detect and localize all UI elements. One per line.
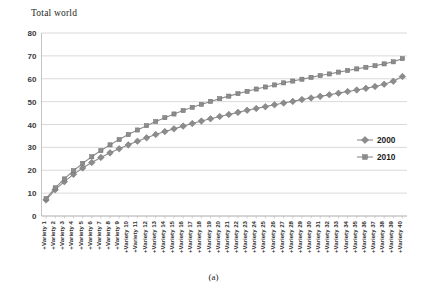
- data-point-marker: [226, 111, 233, 118]
- x-axis-tick-label: +Variety 3: [58, 220, 65, 249]
- data-point-marker: [355, 67, 359, 71]
- data-point-marker: [135, 128, 139, 132]
- data-point-marker: [282, 81, 286, 85]
- y-axis-tick-label: 80: [28, 29, 37, 38]
- x-axis-tick-label: +Variety 5: [77, 220, 84, 249]
- data-point-marker: [143, 134, 150, 141]
- x-axis-tick-label: +Variety 33: [332, 220, 339, 253]
- x-axis-tick-label: +Variety 31: [314, 220, 321, 253]
- y-axis-tick-label: 30: [28, 143, 37, 152]
- data-point-marker: [400, 57, 404, 61]
- data-point-marker: [198, 118, 205, 125]
- data-point-marker: [180, 123, 187, 130]
- x-axis-tick-label: +Variety 24: [250, 220, 257, 253]
- data-point-marker: [88, 159, 95, 166]
- x-axis-tick-label: +Variety 35: [351, 220, 358, 253]
- x-axis-tick-label: +Variety 40: [396, 220, 403, 253]
- data-point-marker: [373, 64, 377, 68]
- data-point-marker: [99, 148, 103, 152]
- data-point-marker: [208, 99, 212, 103]
- data-point-marker: [381, 81, 388, 88]
- data-point-marker: [290, 98, 297, 105]
- x-axis-tick-label: +Variety 11: [131, 220, 138, 252]
- x-axis-tick-label: +Variety 6: [86, 220, 93, 249]
- data-point-marker: [344, 88, 351, 95]
- y-axis-tick-label: 20: [28, 166, 37, 175]
- data-point-marker: [391, 60, 395, 64]
- data-point-marker: [207, 116, 214, 123]
- data-point-marker: [71, 169, 75, 173]
- y-axis-tick-label: 70: [28, 52, 37, 61]
- data-point-marker: [300, 77, 304, 81]
- x-axis-tick-label: +Variety 37: [369, 220, 376, 253]
- x-axis-tick-label: +Variety 29: [296, 220, 303, 253]
- data-point-marker: [44, 197, 48, 201]
- x-axis-tick-label: +Variety 20: [214, 220, 221, 253]
- x-axis-tick-label: +Variety 27: [278, 220, 285, 253]
- x-axis-tick-label: +Variety 17: [186, 220, 193, 253]
- data-point-marker: [62, 177, 66, 181]
- x-axis-tick-label: +Variety 19: [205, 220, 212, 253]
- x-axis-tick-label: +Variety 28: [287, 220, 294, 253]
- x-axis-tick-label: +Variety 15: [168, 220, 175, 253]
- data-point-marker: [235, 109, 242, 116]
- x-axis-tick-label: +Variety 1: [40, 220, 47, 249]
- data-point-marker: [189, 120, 196, 127]
- chart-svg: 01020304050607080+Variety 1+Variety 2+Va…: [0, 0, 427, 295]
- x-axis-tick-label: +Variety 18: [195, 220, 202, 253]
- data-point-marker: [335, 90, 342, 97]
- data-point-marker: [53, 186, 57, 190]
- data-point-marker: [364, 65, 368, 69]
- data-point-marker: [190, 105, 194, 109]
- data-point-marker: [90, 155, 94, 159]
- data-point-marker: [336, 70, 340, 74]
- x-axis-tick-label: +Variety 36: [360, 220, 367, 253]
- data-point-marker: [172, 112, 176, 116]
- data-point-marker: [363, 155, 368, 160]
- x-axis-tick-label: +Variety 10: [122, 220, 129, 253]
- data-point-marker: [107, 150, 114, 157]
- data-point-marker: [227, 94, 231, 98]
- x-axis-tick-label: +Variety 2: [49, 220, 56, 249]
- x-axis-tick-label: +Variety 9: [113, 220, 120, 249]
- data-point-marker: [126, 132, 130, 136]
- figure-caption: (a): [0, 272, 427, 282]
- series-2000: [43, 73, 406, 203]
- legend-item-2000[interactable]: 2000: [357, 135, 396, 145]
- y-axis-tick-label: 40: [28, 121, 37, 130]
- data-point-marker: [134, 138, 141, 145]
- y-axis-tick-label: 60: [28, 75, 37, 84]
- data-point-marker: [199, 102, 203, 106]
- x-axis-tick-label: +Variety 22: [232, 220, 239, 253]
- data-point-marker: [171, 126, 178, 133]
- data-point-marker: [263, 85, 267, 89]
- data-point-marker: [216, 113, 223, 120]
- x-axis-tick-label: +Variety 38: [378, 220, 385, 253]
- data-point-marker: [163, 116, 167, 120]
- data-point-marker: [162, 128, 169, 135]
- x-axis-tick-label: +Variety 7: [95, 220, 102, 249]
- x-axis-tick-label: +Variety 34: [342, 220, 349, 253]
- y-axis-tick-label: 10: [28, 189, 37, 198]
- data-point-marker: [318, 73, 322, 77]
- x-axis-tick-label: +Variety 4: [67, 220, 74, 249]
- figure-panel-a: Total world 01020304050607080+Variety 1+…: [0, 0, 427, 295]
- data-point-marker: [291, 79, 295, 83]
- data-point-marker: [346, 68, 350, 72]
- x-axis-tick-label: +Variety 8: [104, 220, 111, 249]
- x-axis-tick-label: +Variety 12: [141, 220, 148, 253]
- data-point-marker: [244, 107, 251, 114]
- data-point-marker: [218, 97, 222, 101]
- x-axis-tick-label: +Variety 32: [323, 220, 330, 253]
- x-axis-tick-label: +Variety 21: [223, 220, 230, 253]
- data-point-marker: [308, 95, 315, 102]
- data-point-marker: [326, 91, 333, 98]
- data-point-marker: [144, 124, 148, 128]
- data-point-marker: [327, 72, 331, 76]
- data-point-marker: [152, 131, 159, 138]
- data-point-marker: [181, 108, 185, 112]
- x-axis-tick-label: +Variety 14: [159, 220, 166, 253]
- data-point-marker: [280, 100, 287, 107]
- data-point-marker: [253, 105, 260, 112]
- legend-item-2010[interactable]: 2010: [357, 152, 396, 162]
